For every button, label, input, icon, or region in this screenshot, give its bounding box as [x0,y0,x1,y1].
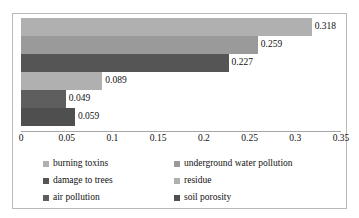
legend-item[interactable]: burning toxins [43,159,174,169]
x-axis-tick-label: 0.1 [106,134,118,144]
bar[interactable] [21,108,75,126]
legend-item-label: air pollution [53,193,100,203]
x-axis-tick-label: 0.3 [289,134,301,144]
legend-item[interactable]: damage to trees [43,176,174,186]
legend-item[interactable]: residue [174,176,333,186]
bar-value-label: 0.227 [229,58,253,68]
legend-item-label: underground water pollution [184,159,293,169]
legend-swatch-icon [43,178,49,184]
x-axis-tick-label: 0.35 [333,134,350,144]
x-axis-tick-labels: 00.050.10.150.20.250.30.35 [21,134,341,148]
bar-row: 0.089 [21,72,341,90]
x-axis-line [21,131,341,132]
legend-swatch-icon [174,178,180,184]
bar-value-label: 0.059 [75,112,99,122]
plot-area: 0.3180.2590.2270.0890.0490.059 [21,18,341,131]
chart-frame: 0.3180.2590.2270.0890.0490.059 00.050.10… [12,13,347,209]
bar[interactable] [21,36,258,54]
chart-legend: burning toxinsunderground water pollutio… [43,155,333,206]
legend-swatch-icon [43,195,49,201]
x-axis-tick-label: 0.15 [150,134,167,144]
bar[interactable] [21,54,229,72]
bar[interactable] [21,90,66,108]
legend-item-label: residue [184,176,211,186]
bar-row: 0.059 [21,108,341,126]
legend-item[interactable]: underground water pollution [174,159,333,169]
x-axis-tick-label: 0 [19,134,24,144]
bar-value-label: 0.049 [66,94,90,104]
legend-swatch-icon [174,161,180,167]
legend-item[interactable]: soil porosity [174,193,333,203]
bar-row: 0.318 [21,18,341,36]
legend-swatch-icon [43,161,49,167]
legend-item[interactable]: air pollution [43,193,174,203]
bar-value-label: 0.259 [258,40,282,50]
bar[interactable] [21,72,102,90]
legend-swatch-icon [174,195,180,201]
bar-value-label: 0.089 [102,76,126,86]
bar[interactable] [21,18,312,36]
x-axis-tick-label: 0.25 [241,134,258,144]
bar-row: 0.227 [21,54,341,72]
legend-item-label: burning toxins [53,159,108,169]
x-axis-tick-label: 0.2 [198,134,210,144]
bar-row: 0.049 [21,90,341,108]
x-axis-tick-label: 0.05 [58,134,75,144]
legend-item-label: damage to trees [53,176,113,186]
legend-item-label: soil porosity [184,193,231,203]
bar-value-label: 0.318 [312,22,336,32]
bar-row: 0.259 [21,36,341,54]
